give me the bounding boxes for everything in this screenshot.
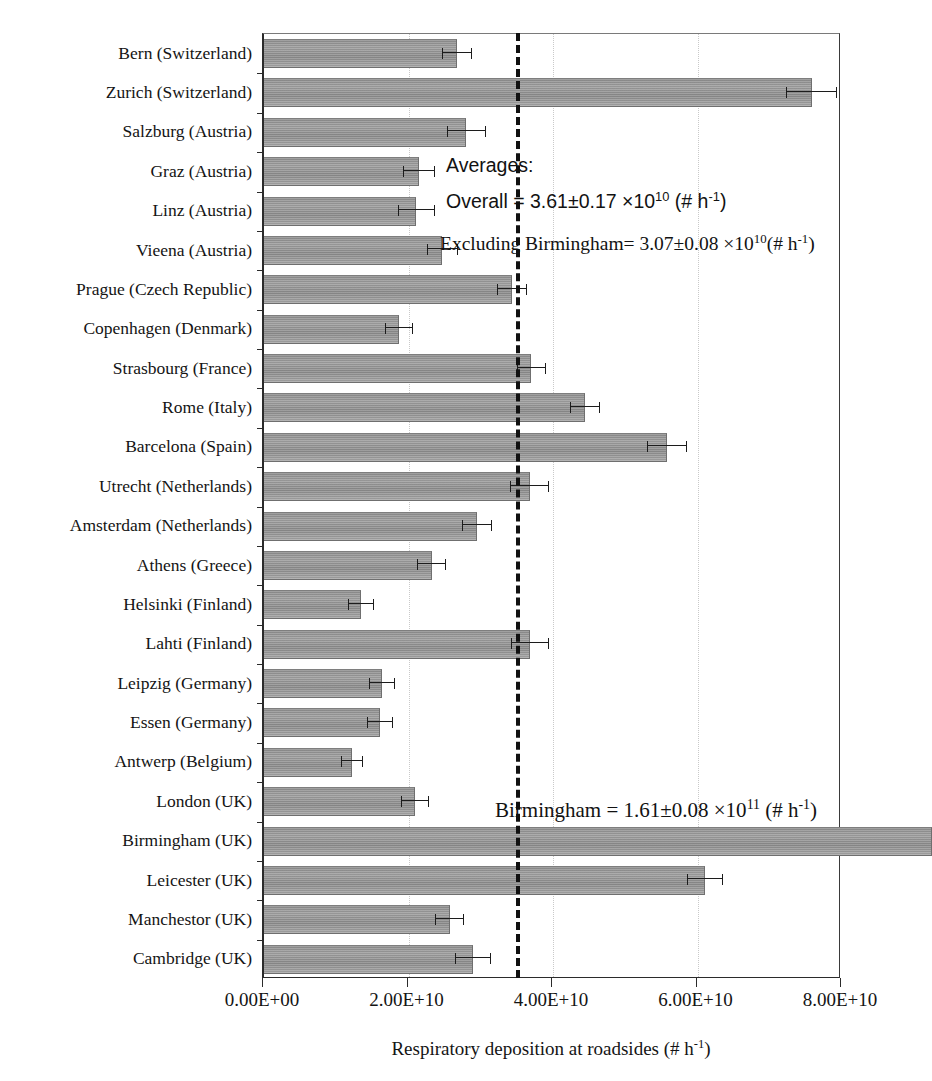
y-axis-tick [257, 940, 264, 941]
y-axis-tick [257, 822, 264, 823]
error-bar [341, 760, 363, 761]
y-axis-label: Zurich (Switzerland) [0, 84, 252, 102]
bar [264, 315, 399, 344]
y-axis-label: Linz (Austria) [0, 202, 252, 220]
y-axis-label: Athens (Greece) [0, 557, 252, 575]
y-axis-tick [257, 467, 264, 468]
bar-row [264, 34, 842, 73]
y-axis-label: Lahti (Finland) [0, 635, 252, 653]
y-axis-tick [257, 625, 264, 626]
bar-row [264, 585, 842, 624]
x-axis-tick [696, 978, 697, 987]
bar-row [264, 152, 842, 191]
bar [264, 275, 512, 304]
annotation-excluding-unit-exponent: -1 [798, 232, 809, 246]
x-axis-ticks [262, 978, 840, 988]
y-axis-tick [257, 388, 264, 389]
annotation-birmingham-value: Birmingham = 1.61±0.08 ×1011 (# h-1) [495, 800, 817, 821]
y-axis-tick [257, 782, 264, 783]
x-axis-tick-label: 8.00E+10 [765, 990, 915, 1009]
bar-row [264, 664, 842, 703]
error-bar [348, 603, 374, 604]
error-bar [417, 563, 446, 564]
x-axis-title-exponent: -1 [694, 1037, 704, 1051]
y-axis-tick [257, 428, 264, 429]
x-axis-tick-label: 0.00E+00 [187, 990, 337, 1009]
annotation-birmingham-exponent: 11 [747, 797, 760, 812]
annotation-excluding-exponent: 10 [754, 232, 767, 246]
y-axis-label: Utrecht (Netherlands) [0, 478, 252, 496]
y-axis-tick [257, 703, 264, 704]
error-bar [647, 445, 687, 446]
bar [264, 236, 442, 265]
y-axis-label: Leicester (UK) [0, 872, 252, 890]
bar [264, 708, 380, 737]
bar-row [264, 113, 842, 152]
y-axis-label: Amsterdam (Netherlands) [0, 517, 252, 535]
bar-row [264, 940, 842, 979]
bar [264, 905, 450, 934]
y-axis-label: London (UK) [0, 793, 252, 811]
bar [264, 39, 457, 68]
bar [264, 630, 530, 659]
y-axis-tick [257, 270, 264, 271]
bar-row [264, 703, 842, 742]
error-bar [687, 878, 723, 879]
error-bar [385, 327, 412, 328]
error-bar [786, 91, 837, 92]
y-axis-tick [257, 861, 264, 862]
bar [264, 472, 530, 501]
annotation-birmingham-unit-close: ) [810, 798, 817, 822]
annotation-birmingham-unit-exponent: -1 [798, 797, 810, 812]
y-axis-tick [257, 192, 264, 193]
bar [264, 78, 812, 107]
y-axis-label: Barcelona (Spain) [0, 438, 252, 456]
error-bar [403, 170, 435, 171]
annotation-overall-text: Overall = 3.61±0.17 ×10 [446, 190, 655, 212]
y-axis-label: Salzburg (Austria) [0, 123, 252, 141]
bar [264, 669, 382, 698]
x-axis-title-close: ) [704, 1038, 710, 1059]
error-bar [398, 209, 434, 210]
x-axis-tick [551, 978, 552, 987]
annotation-excluding-text: Excluding Birmingham= 3.07±0.08 ×10 [440, 233, 754, 254]
bar-row [264, 900, 842, 939]
bar-row [264, 73, 842, 112]
bar-row [264, 388, 842, 427]
annotation-birmingham-unit: (# h [760, 798, 799, 822]
y-axis-label: Bern (Switzerland) [0, 45, 252, 63]
y-axis-tick [257, 231, 264, 232]
y-axis-tick [257, 152, 264, 153]
bar-row [264, 507, 842, 546]
x-axis-title: Respiratory deposition at roadsides (# h… [262, 1038, 840, 1060]
y-axis-label: Graz (Austria) [0, 163, 252, 181]
annotation-overall-exponent: 10 [655, 189, 669, 204]
error-bar [570, 406, 600, 407]
bar-row [264, 428, 842, 467]
y-axis-tick [257, 349, 264, 350]
y-axis-label: Copenhagen (Denmark) [0, 320, 252, 338]
bar [264, 827, 932, 856]
bar [264, 748, 352, 777]
bar [264, 945, 473, 974]
y-axis-tick [257, 310, 264, 311]
bar-row [264, 743, 842, 782]
bar [264, 433, 667, 462]
x-axis-tick-labels: 0.00E+002.00E+104.00E+106.00E+108.00E+10 [0, 990, 929, 1016]
annotation-averages-heading: Averages: [446, 156, 533, 176]
y-axis-tick [257, 507, 264, 508]
bar [264, 118, 466, 147]
y-axis-label: Rome (Italy) [0, 399, 252, 417]
y-axis-label: Helsinki (Finland) [0, 596, 252, 614]
y-axis-label: Prague (Czech Republic) [0, 281, 252, 299]
y-axis-tick [257, 900, 264, 901]
annotation-overall-average: Overall = 3.61±0.17 ×1010 (# h-1) [446, 192, 726, 212]
bar [264, 157, 419, 186]
x-axis-tick [262, 978, 263, 987]
bar-row [264, 861, 842, 900]
error-bar [462, 524, 492, 525]
bar-row [264, 625, 842, 664]
error-bar [447, 130, 486, 131]
annotation-birmingham-text: Birmingham = 1.61±0.08 ×10 [495, 798, 747, 822]
x-axis-tick [407, 978, 408, 987]
